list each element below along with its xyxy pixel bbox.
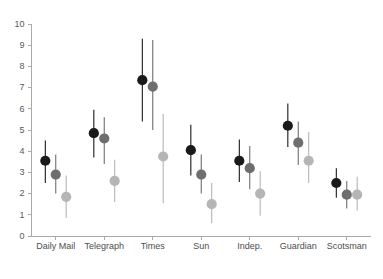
- y-tick-label: 0: [19, 231, 24, 241]
- y-tick-label: 10: [14, 19, 24, 29]
- data-point: [304, 156, 314, 166]
- data-point: [110, 176, 120, 186]
- data-point: [196, 169, 206, 179]
- y-tick-label: 8: [19, 61, 24, 71]
- y-tick-label: 5: [19, 125, 24, 135]
- data-point: [207, 199, 217, 209]
- data-point: [158, 151, 168, 161]
- data-point: [40, 156, 50, 166]
- data-point: [283, 121, 293, 131]
- data-point: [61, 192, 71, 202]
- x-tick-label: Scotsman: [327, 241, 367, 251]
- data-point: [186, 145, 196, 155]
- y-tick-label: 1: [19, 210, 24, 220]
- x-tick-label: Telegraph: [84, 241, 124, 251]
- x-tick-label: Indep.: [237, 241, 262, 251]
- data-point: [148, 81, 158, 91]
- x-tick-label: Times: [141, 241, 166, 251]
- scatter-chart: 012345678910Daily MailTelegraphTimesSunI…: [0, 0, 383, 279]
- x-tick-label: Sun: [193, 241, 209, 251]
- y-tick-label: 2: [19, 188, 24, 198]
- data-point: [89, 128, 99, 138]
- data-point: [352, 190, 362, 200]
- plot-area: 012345678910Daily MailTelegraphTimesSunI…: [0, 0, 383, 279]
- data-point: [342, 190, 352, 200]
- data-point: [99, 133, 109, 143]
- data-point: [293, 138, 303, 148]
- y-tick-label: 9: [19, 40, 24, 50]
- data-point: [245, 163, 255, 173]
- y-tick-label: 7: [19, 82, 24, 92]
- y-tick-label: 4: [19, 146, 24, 156]
- data-point: [51, 169, 61, 179]
- x-tick-label: Guardian: [280, 241, 317, 251]
- y-tick-label: 6: [19, 104, 24, 114]
- data-point: [331, 178, 341, 188]
- x-tick-label: Daily Mail: [36, 241, 75, 251]
- data-point: [137, 75, 147, 85]
- data-point: [255, 189, 265, 199]
- y-tick-label: 3: [19, 167, 24, 177]
- data-point: [234, 156, 244, 166]
